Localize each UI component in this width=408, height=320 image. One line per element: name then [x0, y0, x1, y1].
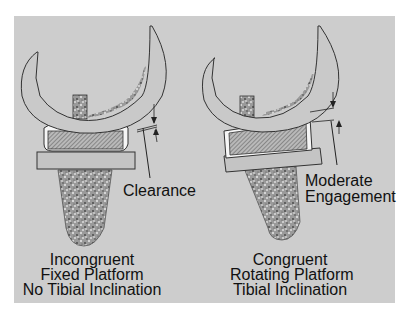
tibial-stem — [58, 170, 112, 246]
tibial-stem — [244, 166, 300, 240]
femoral-component — [202, 26, 338, 132]
left-implant — [21, 26, 166, 246]
left-caption-line-2: Fixed Platform — [22, 267, 162, 282]
femoral-peg — [73, 95, 87, 119]
engagement-label: Moderate Engagement — [305, 173, 396, 205]
engagement-label-line-1: Moderate — [305, 173, 396, 189]
clearance-leader — [143, 128, 150, 178]
femoral-component — [21, 26, 166, 133]
left-caption: Incongruent Fixed Platform No Tibial Inc… — [22, 252, 162, 297]
engagement-leader — [331, 121, 337, 165]
tibial-insert — [48, 131, 123, 149]
clearance-label: Clearance — [123, 183, 196, 199]
right-caption-line-1: Congruent — [230, 252, 350, 267]
left-caption-line-3: No Tibial Inclination — [22, 282, 162, 297]
right-caption: Congruent Rotating Platform Tibial Incli… — [230, 252, 350, 297]
right-caption-line-3: Tibial Inclination — [230, 282, 350, 297]
right-implant — [202, 26, 342, 240]
tibial-tray — [37, 152, 135, 169]
femoral-peg — [240, 96, 254, 118]
engagement-label-line-2: Engagement — [305, 189, 396, 205]
right-caption-line-2: Rotating Platform — [230, 267, 350, 282]
left-caption-line-1: Incongruent — [22, 252, 162, 267]
